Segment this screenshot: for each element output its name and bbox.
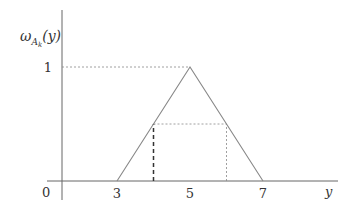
y-axis-label-arg: (y) bbox=[42, 28, 61, 44]
origin-label: 0 bbox=[42, 185, 50, 200]
x-tick-label-5: 5 bbox=[186, 186, 194, 201]
y-axis-label: ωAk(y) bbox=[20, 28, 61, 49]
x-axis-label: y bbox=[324, 184, 333, 199]
y-axis-label-base: ω bbox=[20, 28, 32, 44]
membership-diagram: ωAk(y) 0 y 3571 bbox=[0, 0, 354, 212]
y-tick-label-1: 1 bbox=[44, 60, 52, 75]
x-tick-label-3: 3 bbox=[113, 186, 121, 201]
x-tick-label-7: 7 bbox=[259, 186, 267, 201]
